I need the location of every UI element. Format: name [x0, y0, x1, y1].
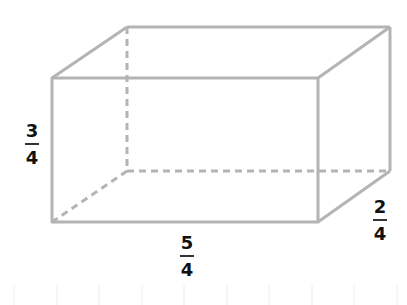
top-left-depth-edge — [52, 27, 127, 78]
prism-diagram — [0, 0, 407, 305]
fraction-bar — [25, 143, 39, 145]
faint-grid-marks — [14, 285, 397, 305]
top-right-depth-edge — [318, 27, 390, 78]
length-numerator: 5 — [177, 233, 197, 253]
visible-edges — [52, 27, 390, 222]
length-denominator: 4 — [177, 260, 197, 280]
length-label: 5 4 — [177, 233, 197, 280]
height-label: 3 4 — [22, 121, 42, 168]
width-label: 2 4 — [370, 197, 390, 244]
width-numerator: 2 — [370, 197, 390, 217]
hidden-edges — [52, 27, 390, 222]
width-denominator: 4 — [370, 224, 390, 244]
height-numerator: 3 — [22, 121, 42, 141]
fraction-bar — [373, 219, 387, 221]
hidden-edge-depth — [52, 171, 127, 222]
front-face — [52, 78, 318, 222]
height-denominator: 4 — [22, 148, 42, 168]
fraction-bar — [180, 255, 194, 257]
